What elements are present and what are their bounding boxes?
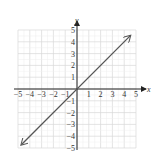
x-tick-label: −5	[14, 90, 23, 99]
x-tick-label: 3	[110, 90, 114, 99]
y-tick-label: −5	[66, 144, 75, 153]
y-axis-label: y	[74, 16, 79, 25]
coordinate-plane: −5−4−3−2−11234554321−1−2−3−4−5 x y	[0, 0, 156, 156]
y-tick-label: −4	[66, 132, 75, 141]
y-tick-label: 4	[71, 38, 75, 47]
x-tick-label: 1	[87, 90, 91, 99]
x-tick-label: 5	[134, 90, 138, 99]
x-tick-label: −2	[49, 90, 58, 99]
y-tick-label: 5	[71, 26, 75, 35]
y-tick-label: −3	[66, 120, 75, 129]
y-tick-label: −2	[66, 109, 75, 118]
x-tick-label: 4	[122, 90, 126, 99]
y-tick-label: 2	[71, 61, 75, 70]
x-tick-label: −4	[26, 90, 35, 99]
y-tick-label: 3	[71, 50, 75, 59]
x-tick-label: −3	[37, 90, 46, 99]
x-axis-label: x	[146, 85, 151, 94]
x-tick-label: 2	[99, 90, 103, 99]
y-tick-label: 1	[71, 73, 75, 82]
